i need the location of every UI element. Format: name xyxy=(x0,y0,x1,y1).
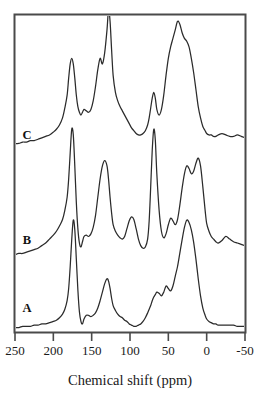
trace-label-b: B xyxy=(23,233,31,247)
x-tick-label-100: 100 xyxy=(120,343,140,358)
x-tick-label-50: 50 xyxy=(162,343,175,358)
x-axis-title: Chemical shift (ppm) xyxy=(68,372,192,389)
x-tick-label-250: 250 xyxy=(5,343,25,358)
trace-label-a: A xyxy=(22,301,31,315)
nmr-spectrum-figure: 250200150100500-50 ABC Chemical shift (p… xyxy=(0,0,263,402)
figure-background xyxy=(0,0,263,402)
x-tick-label-150: 150 xyxy=(82,343,102,358)
spectrum-svg: 250200150100500-50 ABC Chemical shift (p… xyxy=(0,0,263,402)
x-tick-label--50: -50 xyxy=(236,343,253,358)
x-tick-label-200: 200 xyxy=(44,343,64,358)
trace-label-c: C xyxy=(22,128,31,142)
x-tick-label-0: 0 xyxy=(203,343,210,358)
